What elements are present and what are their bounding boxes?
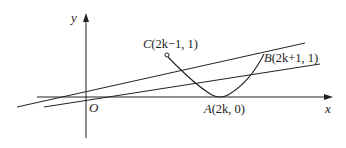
point-a-label: A(2k, 0) [203, 102, 245, 116]
point-a-name: A [203, 102, 212, 116]
svg-text:C(2k−1, 1): C(2k−1, 1) [143, 37, 198, 51]
point-c-coords: (2k−1, 1) [151, 37, 198, 51]
open-point-c-icon [165, 53, 169, 57]
point-c-label: C(2k−1, 1) [143, 37, 198, 51]
x-axis [37, 94, 333, 100]
y-axis [83, 13, 89, 138]
point-b-label: B(2k+1, 1) [264, 51, 318, 65]
parabola-arc [168, 54, 264, 97]
x-axis-label: x [324, 101, 331, 116]
y-axis-label: y [69, 10, 77, 25]
y-axis-arrow-icon [83, 13, 89, 22]
coordinate-diagram: y x O C(2k−1, 1) B(2k+1, 1) A(2k, 0) [0, 0, 346, 148]
origin-label: O [89, 100, 99, 115]
point-a-coords: (2k, 0) [212, 102, 245, 116]
svg-text:B(2k+1, 1): B(2k+1, 1) [264, 51, 318, 65]
point-b-coords: (2k+1, 1) [272, 51, 319, 65]
x-axis-arrow-icon [324, 94, 333, 100]
svg-text:A(2k, 0): A(2k, 0) [203, 102, 245, 116]
